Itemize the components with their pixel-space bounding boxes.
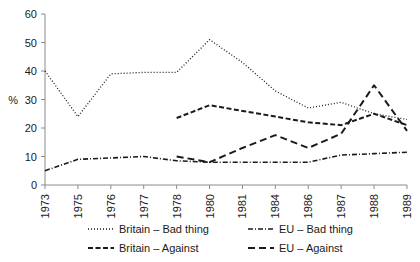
x-tick-label: 1978 [171, 194, 183, 218]
series-line [177, 85, 407, 162]
x-tick-label: 1988 [368, 194, 380, 218]
legend-label: EU – Against [279, 242, 343, 254]
y-tick-label: 20 [25, 122, 37, 134]
x-tick-label: 1989 [401, 194, 413, 218]
legend-label: Britain – Against [119, 242, 199, 254]
y-tick-label: 30 [25, 94, 37, 106]
x-tick-label: 1980 [204, 194, 216, 218]
x-tick-label: 1976 [105, 194, 117, 218]
x-tick-label: 1973 [39, 194, 51, 218]
chart-container: 0102030405060%19731975197619771978198019… [0, 0, 420, 262]
y-tick-label: 60 [25, 8, 37, 20]
x-tick-label: 1977 [138, 194, 150, 218]
y-tick-label: 0 [31, 179, 37, 191]
legend-label: EU – Bad thing [279, 223, 353, 235]
y-tick-label: 50 [25, 37, 37, 49]
line-chart: 0102030405060%19731975197619771978198019… [0, 0, 420, 262]
x-tick-label: 1987 [335, 194, 347, 218]
y-tick-label: 10 [25, 151, 37, 163]
series-line [45, 40, 407, 120]
x-tick-label: 1984 [269, 194, 281, 218]
x-tick-label: 1986 [302, 194, 314, 218]
y-tick-label: 40 [25, 65, 37, 77]
y-axis-title: % [8, 94, 18, 106]
x-tick-label: 1975 [72, 194, 84, 218]
legend-label: Britain – Bad thing [119, 223, 209, 235]
series-line [177, 105, 407, 125]
series-line [45, 152, 407, 171]
x-tick-label: 1981 [236, 194, 248, 218]
